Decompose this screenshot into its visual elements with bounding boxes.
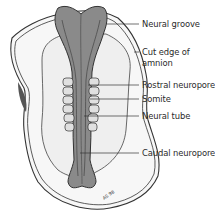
label-amnion: amnion (142, 58, 173, 68)
embryo-illustration: AS 98 (0, 0, 215, 220)
embryo-diagram: AS 98 Neural groove Cut edge of amnion R… (0, 0, 215, 220)
label-rostral-neuropore: Rostral neuropore (142, 80, 215, 90)
label-neural-groove: Neural groove (142, 19, 200, 29)
label-cut-edge-amnion: Cut edge of (142, 47, 190, 57)
label-neural-tube: Neural tube (142, 111, 190, 121)
label-somite: Somite (142, 94, 171, 104)
label-caudal-neuropore: Caudal neuropore (142, 148, 215, 158)
